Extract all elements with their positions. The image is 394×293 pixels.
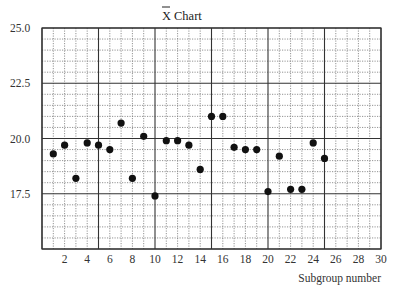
x-tick-label: 28 [353, 253, 365, 265]
data-point [185, 142, 192, 149]
data-point [61, 142, 68, 149]
y-tick-label: 20.0 [10, 133, 30, 145]
data-point [287, 186, 294, 193]
data-point [231, 144, 238, 151]
data-point [197, 166, 204, 173]
data-point [253, 146, 260, 153]
chart-title: X Chart [162, 7, 202, 23]
data-point [208, 113, 215, 120]
data-point [151, 192, 158, 199]
chart-title-suffix: Chart [174, 9, 202, 23]
x-tick-label: 20 [262, 253, 274, 265]
data-point [72, 175, 79, 182]
data-point [50, 150, 57, 157]
x-tick-label: 6 [107, 253, 113, 265]
x-tick-label: 18 [240, 253, 252, 265]
data-point [321, 155, 328, 162]
data-point [163, 137, 170, 144]
data-point [140, 133, 147, 140]
x-tick-label: 26 [330, 253, 342, 265]
chart-title-xbar: X [162, 9, 171, 23]
data-point [310, 139, 317, 146]
y-tick-label: 25.0 [10, 22, 30, 34]
x-tick-label: 8 [130, 253, 136, 265]
data-point [174, 137, 181, 144]
data-point [106, 146, 113, 153]
x-tick-label: 30 [375, 253, 387, 265]
y-axis-labels: 17.520.022.525.0 [10, 22, 30, 200]
data-point [242, 146, 249, 153]
data-point [84, 139, 91, 146]
data-point [129, 175, 136, 182]
x-tick-label: 16 [217, 253, 229, 265]
data-point [118, 119, 125, 126]
x-tick-label: 10 [149, 253, 161, 265]
x-tick-label: 24 [307, 253, 319, 265]
y-tick-label: 17.5 [10, 188, 30, 200]
data-point [264, 188, 271, 195]
data-point [95, 142, 102, 149]
y-tick-label: 22.5 [10, 77, 30, 89]
x-tick-label: 12 [172, 253, 184, 265]
data-point [219, 113, 226, 120]
x-axis-labels: 24681012141618202224262830 [62, 253, 387, 265]
x-tick-label: 4 [84, 253, 90, 265]
x-bar-chart: X Chart 17.520.022.525.0 246810121416182… [0, 0, 394, 293]
x-tick-label: 2 [62, 253, 68, 265]
x-tick-label: 14 [194, 253, 206, 265]
data-point [276, 153, 283, 160]
data-point [298, 186, 305, 193]
x-tick-label: 22 [285, 253, 297, 265]
x-axis-title: Subgroup number [298, 272, 381, 285]
